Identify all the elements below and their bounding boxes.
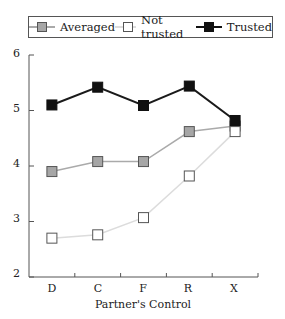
legend-label-trusted: Trusted	[227, 20, 272, 34]
y-tick-label-6: 6	[6, 47, 20, 60]
y-tick-label-3: 3	[6, 212, 20, 225]
series-trusted	[47, 81, 240, 125]
data-point-marker	[47, 167, 57, 177]
series-averaged	[47, 121, 240, 177]
x-label-d: D	[42, 282, 62, 295]
data-point-marker	[93, 157, 103, 167]
x-label-r: R	[178, 282, 198, 295]
chart-legend: Averaged Not trusted Trusted	[28, 16, 273, 38]
legend-item-averaged: Averaged	[29, 20, 115, 34]
data-point-marker	[47, 233, 57, 243]
legend-item-not-trusted: Not trusted	[115, 13, 196, 41]
y-tick-label-2: 2	[6, 267, 20, 280]
x-label-x: X	[224, 282, 244, 295]
series-not-trusted	[47, 127, 240, 244]
line-chart	[0, 0, 285, 319]
data-point-marker	[139, 213, 149, 223]
y-tick-label-5: 5	[6, 102, 20, 115]
trusted-marker-icon	[196, 22, 222, 32]
data-point-marker	[230, 127, 240, 137]
x-label-c: C	[88, 282, 108, 295]
data-point-marker	[230, 115, 240, 125]
data-point-marker	[93, 82, 103, 92]
data-point-marker	[184, 171, 194, 181]
legend-item-trusted: Trusted	[196, 20, 272, 34]
legend-label-averaged: Averaged	[60, 20, 115, 34]
data-point-marker	[47, 100, 57, 110]
data-point-marker	[139, 157, 149, 167]
data-point-marker	[184, 81, 194, 91]
data-point-marker	[184, 127, 194, 137]
y-tick-label-4: 4	[6, 157, 20, 170]
averaged-marker-icon	[29, 22, 55, 32]
x-axis-title: Partner's Control	[43, 298, 243, 311]
data-point-marker	[139, 101, 149, 111]
data-point-marker	[93, 230, 103, 240]
legend-label-not-trusted: Not trusted	[141, 13, 196, 41]
chart-series	[47, 81, 240, 243]
not-trusted-marker-icon	[115, 22, 136, 32]
x-label-f: F	[133, 282, 153, 295]
